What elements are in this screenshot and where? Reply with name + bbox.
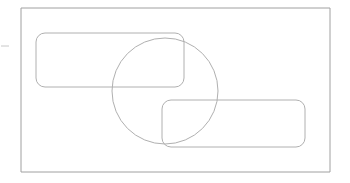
upper-rounded-rectangle-shape <box>36 33 184 87</box>
lower-rounded-rectangle-shape <box>162 100 305 147</box>
overlay-circle-shape <box>112 38 218 144</box>
wireframe-diagram <box>0 0 350 183</box>
diagram-canvas <box>0 0 350 183</box>
